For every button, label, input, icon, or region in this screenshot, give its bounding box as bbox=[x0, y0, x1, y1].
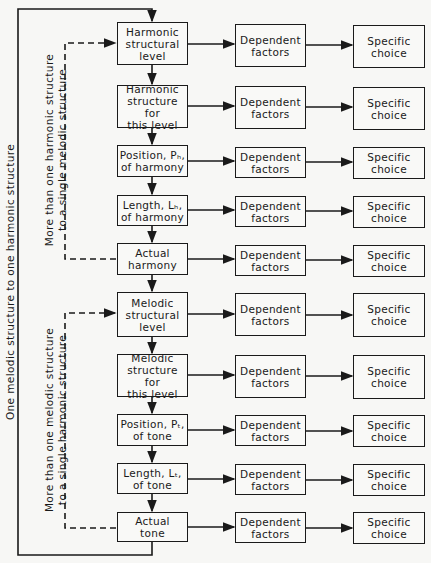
dependent-factors-label: Dependent factors bbox=[240, 151, 301, 175]
dependent-factors-box: Dependent factors bbox=[235, 293, 306, 336]
step-label: Harmonic structure for this level bbox=[118, 83, 187, 131]
specific-choice-label: Specific choice bbox=[367, 200, 410, 224]
dependent-factors-box: Dependent factors bbox=[235, 245, 306, 276]
dependent-factors-box: Dependent factors bbox=[235, 196, 306, 227]
dependent-factors-label: Dependent factors bbox=[240, 303, 301, 327]
step-label: Actual tone bbox=[135, 515, 170, 539]
specific-choice-box: Specific choice bbox=[353, 512, 425, 544]
dependent-factors-box: Dependent factors bbox=[235, 86, 306, 129]
specific-choice-label: Specific choice bbox=[367, 419, 410, 443]
specific-choice-label: Specific choice bbox=[367, 151, 410, 175]
step-label: Length, Lₜ, of tone bbox=[123, 467, 181, 491]
specific-choice-label: Specific choice bbox=[367, 365, 410, 389]
dependent-factors-label: Dependent factors bbox=[240, 200, 301, 224]
specific-choice-label: Specific choice bbox=[367, 97, 410, 121]
specific-choice-label: Specific choice bbox=[367, 468, 410, 492]
specific-choice-box: Specific choice bbox=[353, 196, 425, 228]
specific-choice-box: Specific choice bbox=[353, 415, 425, 447]
step-position-harmony: Position, Pₕ, of harmony bbox=[117, 145, 188, 177]
step-length-harmony: Length, Lₕ, of harmony bbox=[117, 195, 188, 226]
dependent-factors-label: Dependent factors bbox=[240, 96, 301, 120]
step-label: Melodic structure for this level bbox=[118, 352, 187, 400]
dependent-factors-label: Dependent factors bbox=[240, 249, 301, 273]
step-position-tone: Position, Pₜ, of tone bbox=[117, 414, 188, 446]
specific-choice-box: Specific choice bbox=[353, 245, 425, 277]
specific-choice-box: Specific choice bbox=[353, 355, 425, 399]
dependent-factors-label: Dependent factors bbox=[240, 365, 301, 389]
specific-choice-box: Specific choice bbox=[353, 25, 425, 68]
step-melodic-structure: Melodic structure for this level bbox=[117, 354, 188, 397]
step-harmonic-structural-level: Harmonic structural level bbox=[117, 22, 188, 65]
dependent-factors-box: Dependent factors bbox=[235, 464, 306, 495]
specific-choice-box: Specific choice bbox=[353, 464, 425, 496]
dependent-factors-box: Dependent factors bbox=[235, 147, 306, 178]
step-label: Position, Pₕ, of harmony bbox=[120, 149, 185, 173]
specific-choice-box: Specific choice bbox=[353, 87, 425, 130]
dependent-factors-box: Dependent factors bbox=[235, 355, 306, 398]
step-label: Actual harmony bbox=[128, 247, 177, 271]
specific-choice-label: Specific choice bbox=[367, 516, 410, 540]
dependent-factors-box: Dependent factors bbox=[235, 415, 306, 446]
specific-choice-label: Specific choice bbox=[367, 35, 410, 59]
step-label: Position, Pₜ, of tone bbox=[120, 418, 184, 442]
dependent-factors-box: Dependent factors bbox=[235, 24, 306, 67]
step-actual-harmony: Actual harmony bbox=[117, 243, 188, 275]
melodic-loop-label: More than one melodic structure to a sin… bbox=[43, 328, 69, 512]
dependent-factors-label: Dependent factors bbox=[240, 34, 301, 58]
step-harmonic-structure: Harmonic structure for this level bbox=[117, 85, 188, 128]
dependent-factors-label: Dependent factors bbox=[240, 516, 301, 540]
step-melodic-structural-level: Melodic structural level bbox=[117, 292, 188, 337]
specific-choice-box: Specific choice bbox=[353, 293, 425, 337]
dependent-factors-box: Dependent factors bbox=[235, 512, 306, 543]
step-label: Harmonic structural level bbox=[126, 26, 180, 62]
specific-choice-label: Specific choice bbox=[367, 303, 410, 327]
dependent-factors-label: Dependent factors bbox=[240, 419, 301, 443]
harmonic-loop-label: More than one harmonic structure to a si… bbox=[43, 54, 69, 246]
step-label: Length, Lₕ, of harmony bbox=[121, 199, 184, 223]
step-label: Melodic structural level bbox=[126, 297, 180, 333]
specific-choice-label: Specific choice bbox=[367, 249, 410, 273]
outer-loop-label: One melodic structure to one harmonic st… bbox=[4, 144, 16, 420]
step-actual-tone: Actual tone bbox=[117, 512, 188, 542]
dependent-factors-label: Dependent factors bbox=[240, 468, 301, 492]
specific-choice-box: Specific choice bbox=[353, 147, 425, 179]
step-length-tone: Length, Lₜ, of tone bbox=[117, 463, 188, 494]
